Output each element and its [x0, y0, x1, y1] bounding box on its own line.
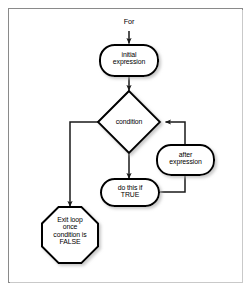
node-exit-loop[interactable] — [42, 207, 98, 263]
figure-container: For initial expression condition after e… — [0, 0, 251, 291]
flowchart-canvas — [0, 0, 251, 291]
connector-condition-to-exit — [70, 122, 98, 207]
node-condition[interactable] — [98, 91, 160, 153]
connector-after-to-condition — [166, 122, 186, 145]
node-do-this-if-true[interactable] — [101, 179, 159, 206]
node-after-expression[interactable] — [157, 145, 214, 175]
connector-do-this-to-after — [160, 175, 185, 192]
node-initial-expression[interactable] — [100, 45, 158, 76]
